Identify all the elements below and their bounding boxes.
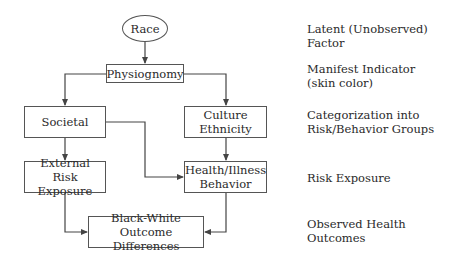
outcome-differences-node: Black-White Outcome Differences	[88, 216, 204, 248]
outcome-label-line1: Black-White	[111, 211, 181, 225]
level-label-categorization: Categorization into Risk/Behavior Groups	[307, 108, 434, 136]
race-node: Race	[122, 15, 168, 42]
societal-label: Societal	[42, 115, 89, 129]
level-label-latent: Latent (Unobserved) Factor	[307, 22, 453, 50]
culture-label-line1: Culture	[203, 108, 247, 122]
physiognomy-label: Physiognomy	[106, 67, 183, 81]
edge-societal-health	[106, 122, 183, 177]
race-label: Race	[130, 22, 159, 36]
level-label-manifest: Manifest Indicator (skin color)	[307, 62, 415, 90]
edge-external-outcome	[65, 193, 87, 232]
health-label-line2: Behavior	[199, 177, 251, 191]
health-behavior-node: Health/Illness Behavior	[184, 161, 267, 193]
societal-node: Societal	[24, 106, 106, 138]
outcome-label-line2: Outcome Differences	[89, 225, 203, 253]
level-label-observed: Observed Health Outcomes	[307, 217, 406, 245]
level-label-risk-exposure: Risk Exposure	[307, 171, 391, 185]
edge-physiognomy-societal	[65, 74, 106, 105]
edge-health-outcome	[205, 193, 226, 232]
culture-ethnicity-node: Culture Ethnicity	[184, 106, 267, 138]
external-label-line2: Risk Exposure	[25, 170, 105, 198]
physiognomy-node: Physiognomy	[106, 64, 184, 83]
external-risk-node: External Risk Exposure	[24, 161, 106, 193]
edge-physiognomy-culture	[184, 74, 226, 105]
external-label-line1: External	[40, 156, 90, 170]
culture-label-line2: Ethnicity	[199, 122, 252, 136]
health-label-line1: Health/Illness	[185, 163, 266, 177]
